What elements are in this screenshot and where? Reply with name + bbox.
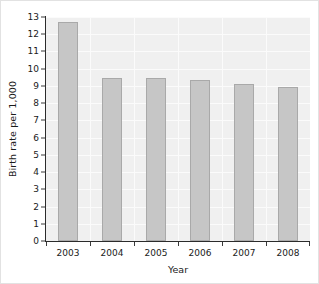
y-axis-tick-label: 13 [28, 12, 39, 22]
vertical-gridline [222, 17, 223, 241]
bar [278, 87, 298, 241]
y-axis-tick-label-group: 012345678910111213 [19, 17, 39, 241]
x-axis-tick-mark [266, 242, 267, 246]
y-axis-tick-label: 8 [33, 98, 39, 108]
bar [58, 22, 78, 241]
y-axis-tick-label: 12 [28, 29, 39, 39]
x-axis-tick-label: 2004 [101, 248, 124, 258]
bar-chart-figure: Birth rate per 1,000 012345678910111213 … [0, 0, 319, 284]
bar [234, 84, 254, 241]
y-axis-title: Birth rate per 1,000 [5, 9, 19, 249]
x-axis-tick-mark [46, 242, 47, 246]
vertical-gridline [134, 17, 135, 241]
x-axis-tick-label: 2008 [277, 248, 300, 258]
bar [190, 80, 210, 241]
x-axis-tick-mark [178, 242, 179, 246]
x-axis-tick-label-group: 200320042005200620072008 [46, 248, 310, 262]
y-axis-tick-label: 9 [33, 81, 39, 91]
bar [102, 78, 122, 241]
y-axis-tick-label: 7 [33, 115, 39, 125]
x-axis-tick-mark [309, 242, 310, 246]
y-axis-tick-label: 4 [33, 167, 39, 177]
y-axis-tick-label: 0 [33, 236, 39, 246]
x-axis-tick-label: 2007 [233, 248, 256, 258]
x-axis-tick-mark [90, 242, 91, 246]
y-axis-tick-label: 1 [33, 219, 39, 229]
y-axis-tick-label: 2 [33, 202, 39, 212]
x-axis-title: Year [46, 264, 310, 275]
y-axis-tick-label: 3 [33, 184, 39, 194]
vertical-gridline [90, 17, 91, 241]
vertical-gridline [266, 17, 267, 241]
bar [146, 78, 166, 241]
y-axis-tick-label: 5 [33, 150, 39, 160]
plot-area [46, 17, 310, 241]
x-axis-tick-mark [222, 242, 223, 246]
vertical-gridline [178, 17, 179, 241]
x-axis-tick-label: 2006 [189, 248, 212, 258]
x-axis-tick-label: 2003 [57, 248, 80, 258]
y-axis-tick-label: 10 [28, 64, 39, 74]
y-axis-tick-label: 6 [33, 133, 39, 143]
x-axis-tick-mark-group [46, 242, 310, 247]
x-axis-tick-label: 2005 [145, 248, 168, 258]
y-axis-tick-label: 11 [28, 46, 39, 56]
x-axis-tick-mark [134, 242, 135, 246]
